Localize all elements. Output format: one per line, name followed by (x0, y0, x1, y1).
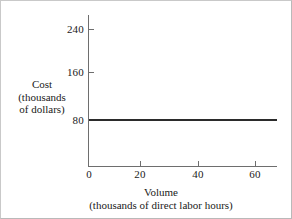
x-tick-40 (198, 161, 199, 166)
y-axis-title-line-1: Cost (2, 78, 82, 91)
y-axis-title-line-2: (thousands (2, 91, 82, 104)
x-tick-20 (140, 161, 141, 166)
y-axis-title-line-3: of dollars) (2, 103, 82, 116)
x-axis-title: Volume (thousands of direct labor hours) (36, 186, 286, 212)
x-tick-60 (255, 161, 256, 166)
x-axis-title-line-2: (thousands of direct labor hours) (36, 199, 286, 212)
x-tick-label-0: 0 (74, 168, 104, 180)
y-tick-240 (89, 29, 94, 30)
y-axis-line (88, 15, 89, 167)
y-tick-label-80: 80 (50, 115, 84, 126)
y-tick-160 (89, 72, 94, 73)
y-tick-label-160-wrap: 160 (50, 67, 84, 78)
x-tick-label-40: 40 (183, 168, 213, 180)
series-fixed-cost-line (89, 119, 277, 121)
y-tick-label-240: 240 (50, 24, 84, 35)
y-tick-label-240-wrap: 240 (50, 24, 84, 35)
chart-figure: 240 160 80 0 20 40 60 Cost (thousands of… (0, 0, 292, 219)
y-tick-label-80-wrap: 80 (50, 115, 84, 126)
x-axis-line (88, 166, 277, 167)
x-tick-label-60: 60 (240, 168, 270, 180)
y-tick-label-160: 160 (50, 67, 84, 78)
x-axis-title-line-1: Volume (36, 186, 286, 199)
x-tick-label-20: 20 (125, 168, 155, 180)
y-axis-title: Cost (thousands of dollars) (2, 78, 82, 116)
